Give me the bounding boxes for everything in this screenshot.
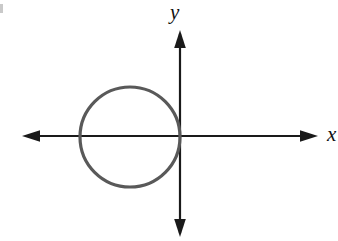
coordinate-plane-figure: y x <box>0 0 338 241</box>
x-axis-group <box>22 130 318 142</box>
y-axis-label: y <box>170 2 179 23</box>
plot-canvas <box>0 0 338 241</box>
y-axis-down-arrowhead <box>174 219 186 237</box>
x-axis-label: x <box>327 124 336 145</box>
x-axis-right-arrowhead <box>300 130 318 142</box>
x-axis-left-arrowhead <box>22 130 40 142</box>
y-axis-up-arrowhead <box>174 30 186 48</box>
